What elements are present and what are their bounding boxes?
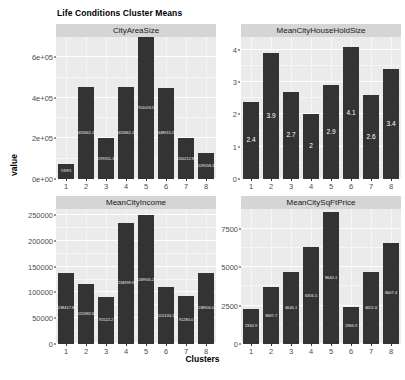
- y-tick-mark: [238, 49, 240, 50]
- y-tick-mark: [54, 97, 56, 98]
- y-tick-mark: [239, 228, 241, 229]
- bar[interactable]: 2334.9: [243, 309, 258, 344]
- x-tick-label: 5: [321, 179, 341, 193]
- bar-cell: 3.4: [381, 37, 401, 179]
- bar-value-label: 4646.1: [285, 306, 297, 310]
- y-tick-label: 4: [233, 45, 237, 54]
- bar-value-label: 3687.7: [265, 314, 277, 318]
- y-axis: 0e+002e+054e+056e+05: [16, 37, 56, 179]
- y-axis: 01234: [216, 37, 240, 179]
- bar-value-label: 91522.2: [99, 318, 113, 322]
- bar[interactable]: 448915.5: [158, 88, 173, 179]
- bar[interactable]: 6356.5: [303, 247, 318, 344]
- bar-series: 2334.93687.74646.16356.58640.12384.94651…: [241, 209, 401, 344]
- y-tick-mark: [238, 179, 240, 180]
- bar-cell: 2: [301, 37, 321, 179]
- y-tick-label: 2: [233, 110, 237, 119]
- bar[interactable]: 138900.0: [198, 273, 213, 344]
- bar-value-label: 129558.1: [198, 164, 215, 168]
- bar[interactable]: 115982.6: [78, 284, 93, 344]
- x-tick-label: 6: [156, 179, 176, 193]
- bar-cell: 74991: [56, 37, 76, 179]
- bar[interactable]: 234999.9: [118, 223, 133, 344]
- x-tick-label: 4: [116, 344, 136, 358]
- bar[interactable]: 8640.1: [323, 212, 338, 344]
- bar-cell: 2334.9: [241, 209, 261, 344]
- bar-value-label: 2.6: [366, 134, 375, 141]
- bar-value-label: 199311.1: [98, 157, 114, 161]
- y-axis: 050000100000150000200000250000: [6, 209, 56, 344]
- bar-value-label: 8640.1: [325, 276, 337, 280]
- bar[interactable]: 249945.2: [138, 215, 153, 344]
- y-tick-label: 0: [49, 340, 53, 349]
- y-tick-mark: [54, 292, 56, 293]
- bar[interactable]: 2.7: [283, 92, 298, 179]
- x-axis: 12345678: [241, 179, 401, 193]
- bar[interactable]: 2.9: [323, 85, 338, 179]
- bar[interactable]: 199311.1: [98, 138, 113, 179]
- x-tick-label: 1: [241, 344, 261, 358]
- x-tick-label: 2: [261, 179, 281, 193]
- chart-root: Life Conditions Cluster Means value Clus…: [0, 0, 405, 380]
- bar[interactable]: 2384.9: [343, 307, 358, 344]
- bar[interactable]: 6607.4: [383, 243, 398, 344]
- x-tick-label: 5: [321, 344, 341, 358]
- bar-value-label: 455861.1: [118, 131, 135, 135]
- y-tick-label: 3: [233, 78, 237, 87]
- facet-cityareasize: CityAreaSize74991455661.1199311.1455861.…: [56, 24, 216, 179]
- bar[interactable]: 91284.0: [178, 296, 193, 344]
- bar-value-label: 115982.6: [78, 312, 94, 316]
- bar[interactable]: 138417.8: [58, 273, 73, 344]
- bar-cell: 199311.1: [96, 37, 116, 179]
- y-tick-mark: [54, 57, 56, 58]
- y-tick-mark: [54, 240, 56, 241]
- bar-cell: 3687.7: [261, 209, 281, 344]
- bar-value-label: 138417.8: [58, 306, 75, 310]
- bar[interactable]: 200212.8: [178, 138, 193, 179]
- bar[interactable]: 3.4: [383, 69, 398, 179]
- x-axis: 12345678: [56, 179, 216, 193]
- bar[interactable]: 91522.2: [98, 297, 113, 344]
- bar-value-label: 4651.6: [365, 306, 377, 310]
- y-tick-label: 4e+05: [32, 93, 53, 102]
- x-tick-label: 2: [261, 344, 281, 358]
- bar[interactable]: 455661.1: [78, 87, 93, 179]
- facet-meancityincome: MeanCityIncome138417.8115982.691522.2234…: [56, 196, 216, 344]
- bar-cell: 91284.0: [176, 209, 196, 344]
- bar[interactable]: 110134.1: [158, 287, 173, 344]
- x-tick-label: 5: [136, 179, 156, 193]
- y-tick-label: 50000: [32, 314, 53, 323]
- y-tick-label: 6e+05: [32, 53, 53, 62]
- facet-meancityhouseholdsize: MeanCityHouseHoldSize2.43.92.722.94.12.6…: [241, 24, 401, 179]
- x-tick-label: 8: [381, 179, 401, 193]
- facet-strip-label: MeanCityHouseHoldSize: [241, 24, 401, 37]
- x-tick-label: 3: [281, 179, 301, 193]
- y-tick-mark: [54, 266, 56, 267]
- x-tick-label: 8: [381, 344, 401, 358]
- x-tick-label: 3: [96, 344, 116, 358]
- bar[interactable]: 455861.1: [118, 87, 133, 179]
- bar[interactable]: 4.1: [343, 47, 358, 179]
- bar-cell: 2.4: [241, 37, 261, 179]
- bar[interactable]: 2: [303, 114, 318, 179]
- bar[interactable]: 2.4: [243, 102, 258, 179]
- bar-value-label: 4.1: [346, 110, 355, 117]
- bar[interactable]: 4646.1: [283, 272, 298, 344]
- y-tick-label: 0e+00: [32, 175, 53, 184]
- facet-strip-label: MeanCitySqFtPrice: [241, 196, 401, 209]
- facet-strip-label: CityAreaSize: [56, 24, 216, 37]
- x-axis: 12345678: [241, 344, 401, 358]
- bar[interactable]: 3687.7: [263, 287, 278, 344]
- bar[interactable]: 3.9: [263, 53, 278, 179]
- bar[interactable]: 701003.5: [138, 37, 153, 179]
- x-tick-label: 1: [241, 179, 261, 193]
- x-tick-label: 3: [281, 344, 301, 358]
- bar[interactable]: 129558.1: [198, 153, 213, 179]
- bar[interactable]: 74991: [58, 164, 73, 179]
- bar[interactable]: 4651.6: [363, 272, 378, 344]
- bar-cell: 2.6: [361, 37, 381, 179]
- x-tick-label: 1: [56, 344, 76, 358]
- y-tick-mark: [54, 215, 56, 216]
- facet-panel: 138417.8115982.691522.2234999.9249945.21…: [56, 209, 216, 344]
- bar[interactable]: 2.6: [363, 95, 378, 179]
